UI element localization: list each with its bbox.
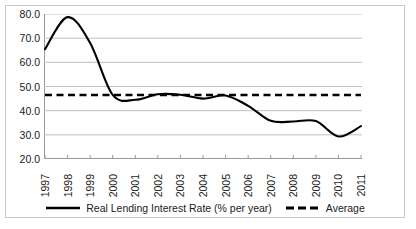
x-axis-tick-label: 2008 — [287, 174, 299, 197]
legend-label-average: Average — [326, 202, 365, 214]
y-axis-tick-label: 60.0 — [2, 57, 40, 67]
x-axis-tick-label: 2001 — [129, 174, 141, 197]
legend-label-series: Real Lending Interest Rate (% per year) — [86, 202, 272, 214]
legend-item-real-lending-interest-rate[interactable]: Real Lending Interest Rate (% per year) — [45, 202, 272, 214]
gridlines — [44, 14, 362, 135]
x-axis-ticks — [45, 155, 361, 159]
chart-figure: 20.030.040.050.060.070.080.0 19971998199… — [0, 0, 416, 229]
x-axis-tick-label: 2010 — [332, 174, 344, 197]
y-axis-tick-label: 30.0 — [2, 130, 40, 140]
dashed-line-swatch-icon — [285, 203, 321, 213]
x-axis-tick-label: 2004 — [197, 174, 209, 197]
plot-wrapper — [44, 14, 362, 159]
y-axis-tick-label: 70.0 — [2, 33, 40, 43]
y-axis-tick-label: 40.0 — [2, 106, 40, 116]
x-axis-tick-label: 2003 — [174, 174, 186, 197]
x-axis-tick-label: 2011 — [355, 174, 367, 197]
solid-line-swatch-icon — [45, 203, 81, 213]
chart-legend: Real Lending Interest Rate (% per year) … — [5, 198, 405, 218]
x-axis-tick-label: 1997 — [39, 174, 51, 197]
x-axis-tick-label: 2000 — [107, 174, 119, 197]
x-axis-tick-label: 1999 — [84, 174, 96, 197]
y-axis-tick-label: 20.0 — [2, 154, 40, 164]
chart-canvas — [44, 14, 362, 159]
series-line-real-lending-interest-rate — [45, 17, 361, 136]
y-axis-tick-label: 80.0 — [2, 9, 40, 19]
y-axis-tick-label: 50.0 — [2, 82, 40, 92]
x-axis-tick-label: 2002 — [152, 174, 164, 197]
x-axis-tick-label: 2005 — [220, 174, 232, 197]
legend-item-average[interactable]: Average — [285, 202, 365, 214]
y-axis-tick-labels: 20.030.040.050.060.070.080.0 — [0, 14, 40, 159]
x-axis-tick-label: 1998 — [62, 174, 74, 197]
x-axis-tick-labels: 1997199819992000200120022003200420052006… — [44, 161, 362, 197]
x-axis-tick-label: 2007 — [265, 174, 277, 197]
x-axis-tick-label: 2006 — [242, 174, 254, 197]
x-axis-tick-label: 2009 — [310, 174, 322, 197]
